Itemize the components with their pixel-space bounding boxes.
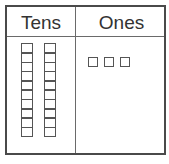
header-divider xyxy=(7,36,164,37)
place-value-chart: Tens Ones xyxy=(5,5,166,155)
ten-rod xyxy=(21,43,33,137)
rod-cell xyxy=(21,127,33,138)
ones-header: Ones xyxy=(77,9,166,36)
ten-rod xyxy=(44,43,56,137)
rod-cell xyxy=(44,127,56,138)
tens-header: Tens xyxy=(7,9,75,36)
unit-cube xyxy=(104,57,114,67)
unit-cube xyxy=(120,57,130,67)
unit-cube xyxy=(88,57,98,67)
column-divider xyxy=(75,7,76,153)
